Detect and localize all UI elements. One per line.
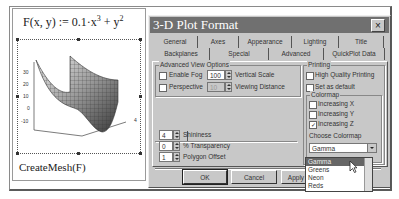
colormap-option-greens[interactable]: Greens	[306, 166, 372, 174]
viewing-distance-input[interactable]: 10	[207, 82, 225, 92]
choose-colormap-label: Choose Colormap	[309, 132, 361, 139]
tab-advanced[interactable]: Advanced	[269, 48, 324, 60]
viewing-distance-spinner[interactable]	[225, 82, 232, 92]
tab-row-1: General Axes Appearance Lighting Title	[153, 36, 385, 48]
high-quality-printing-label: High Quality Printing	[315, 71, 374, 78]
advanced-view-options-group: Advanced View Options Enable Fog 100 Ver…	[155, 65, 301, 97]
vertical-scale-label: Vertical Scale	[235, 71, 274, 78]
function-name: F(x, y)	[23, 15, 56, 29]
perspective-checkbox[interactable]	[159, 84, 167, 92]
shininess-label: Shininess	[183, 131, 211, 138]
enable-fog-checkbox[interactable]	[159, 72, 167, 80]
svg-text:0: 0	[27, 105, 30, 111]
colormap-select[interactable]: Gamma	[309, 143, 377, 153]
tab-general[interactable]: General	[153, 36, 198, 48]
tab-backplanes[interactable]: Backplanes	[153, 48, 210, 60]
exponent-y: 2	[120, 14, 124, 23]
worksheet-region: F(x, y) := 0.1·x3 + y2	[12, 8, 146, 181]
resize-handle[interactable]	[139, 152, 142, 155]
increasing-y-label: Increasing Y	[318, 110, 354, 117]
plot-format-dialog: 3-D Plot Format × General Axes Appearanc…	[148, 15, 391, 188]
transparency-label: % Transparency	[183, 142, 230, 149]
increasing-y-checkbox[interactable]	[309, 111, 317, 119]
mouse-pointer-icon	[349, 160, 358, 173]
function-definition[interactable]: F(x, y) := 0.1·x3 + y2	[23, 14, 124, 30]
set-as-default-label: Set as default	[315, 83, 355, 90]
resize-handle[interactable]	[16, 152, 19, 155]
printing-group: Printing High Quality Printing Set as de…	[303, 65, 385, 165]
resize-handle[interactable]	[16, 38, 19, 41]
shininess-input[interactable]: 4	[159, 130, 173, 140]
svg-text:10: 10	[23, 93, 29, 99]
polygon-offset-label: Polygon Offset	[183, 153, 226, 160]
tab-title[interactable]: Title	[339, 36, 384, 48]
polygon-offset-spinner[interactable]	[173, 152, 180, 162]
dialog-title: 3-D Plot Format	[153, 17, 238, 33]
colormap-option-gamma[interactable]: Gamma	[306, 158, 372, 166]
exponent-x: 3	[97, 14, 101, 23]
coefficient: 0.1	[72, 15, 87, 29]
increasing-z-checkbox[interactable]: ✓	[309, 121, 317, 129]
assign-operator: :=	[59, 15, 69, 29]
increasing-z-label: Increasing Z	[318, 120, 354, 127]
close-icon: ×	[375, 20, 381, 31]
svg-text:-10: -10	[21, 118, 28, 124]
chevron-down-icon[interactable]	[367, 144, 376, 152]
resize-handle[interactable]	[77, 38, 80, 41]
tab-quickplot-data[interactable]: QuickPlot Data	[324, 48, 385, 60]
transparency-spinner[interactable]	[173, 141, 180, 151]
high-quality-printing-checkbox[interactable]	[306, 72, 314, 80]
resize-handle[interactable]	[139, 95, 142, 98]
tab-row-2: Backplanes Special Advanced QuickPlot Da…	[153, 48, 385, 60]
resize-handle[interactable]	[139, 38, 142, 41]
dropdown-scrollbar[interactable]	[364, 158, 372, 191]
resize-handle[interactable]	[77, 152, 80, 155]
transparency-input[interactable]: 0	[159, 141, 173, 151]
viewing-distance-label: Viewing Distance	[235, 83, 285, 90]
cancel-button[interactable]: Cancel	[231, 170, 277, 184]
group-label: Colormap	[310, 91, 340, 98]
tab-special[interactable]: Special	[210, 48, 269, 60]
colormap-selected-value: Gamma	[312, 145, 335, 152]
svg-text:20: 20	[23, 81, 29, 87]
svg-text:4: 4	[134, 117, 137, 123]
colormap-option-reds[interactable]: Reds	[306, 182, 372, 190]
checkmark-icon: ✓	[311, 122, 316, 128]
title-bar[interactable]: 3-D Plot Format ×	[150, 17, 389, 33]
colormap-dropdown-list[interactable]: Gamma Greens Neon Reds	[305, 157, 373, 192]
tab-appearance[interactable]: Appearance	[239, 36, 292, 48]
surface-plot[interactable]: 30 20 10 0 -10 4	[17, 39, 141, 154]
resize-handle[interactable]	[16, 95, 19, 98]
close-button[interactable]: ×	[371, 19, 385, 32]
increasing-x-label: Increasing X	[318, 100, 354, 107]
plus-operator: +	[104, 15, 111, 29]
increasing-x-checkbox[interactable]	[309, 101, 317, 109]
perspective-label: Perspective	[169, 83, 203, 90]
create-mesh-expression[interactable]: CreateMesh(F)	[19, 161, 86, 173]
vertical-scale-spinner[interactable]	[225, 70, 232, 80]
svg-text:30: 30	[23, 69, 29, 75]
enable-fog-label: Enable Fog	[169, 71, 202, 78]
ok-button[interactable]: OK	[183, 170, 227, 184]
polygon-offset-input[interactable]: 1	[159, 152, 173, 162]
advanced-tab-panel: Advanced View Options Enable Fog 100 Ver…	[152, 61, 388, 167]
colormap-group: Colormap Increasing X Increasing Y ✓ Inc…	[306, 95, 382, 163]
vertical-scale-input[interactable]: 100	[207, 70, 225, 80]
tab-lighting[interactable]: Lighting	[292, 36, 339, 48]
colormap-option-neon[interactable]: Neon	[306, 174, 372, 182]
group-label: Advanced View Options	[159, 61, 230, 68]
group-label: Printing	[307, 61, 331, 68]
tab-axes[interactable]: Axes	[198, 36, 239, 48]
surface-mesh-graphic: 30 20 10 0 -10 4	[18, 40, 140, 153]
shininess-spinner[interactable]	[173, 130, 180, 140]
